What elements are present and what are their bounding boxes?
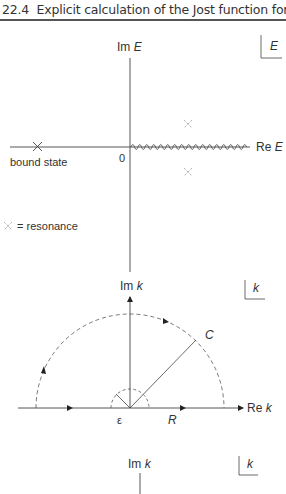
plane-indicator-k-2: k [239, 456, 258, 475]
direction-arrow-left [67, 405, 73, 411]
figure-momentum-contour: k Im k Re k C ε R [18, 279, 273, 427]
figures-canvas: E Im E Re E 0 bound state = r [0, 0, 286, 494]
re-axis-label-e: Re E [256, 140, 284, 154]
figure-energy-plane: E Im E Re E 0 bound state = r [4, 35, 284, 272]
direction-arrow-right [180, 405, 186, 411]
contour-label-c: C [205, 328, 214, 342]
plane-label-k: k [253, 281, 260, 295]
resonance-marker-lower [184, 168, 192, 176]
bound-state-marker [33, 142, 42, 151]
radius-label-r: R [168, 413, 177, 427]
epsilon-radius-line [116, 394, 130, 408]
resonance-legend-label: = resonance [17, 220, 78, 232]
im-axis-label-k: Im k [120, 279, 144, 293]
arc-arrow-top [163, 318, 169, 324]
bound-state-label: bound state [10, 156, 68, 168]
im-axis-label-k-2: Im k [128, 457, 152, 471]
plane-indicator-e: E [261, 35, 282, 58]
origin-label: 0 [119, 152, 125, 164]
im-axis-label-e: Im E [117, 40, 143, 54]
re-axis-label-k: Re k [247, 401, 273, 415]
resonance-legend-marker [4, 222, 12, 230]
radius-line [130, 340, 196, 408]
resonance-marker-upper [184, 120, 192, 128]
plane-indicator-k: k [245, 280, 265, 299]
plane-label-e: E [270, 39, 279, 53]
figure-momentum-plane-partial: k Im k [128, 456, 258, 494]
plane-label-k-2: k [247, 457, 254, 471]
epsilon-label: ε [117, 414, 122, 426]
